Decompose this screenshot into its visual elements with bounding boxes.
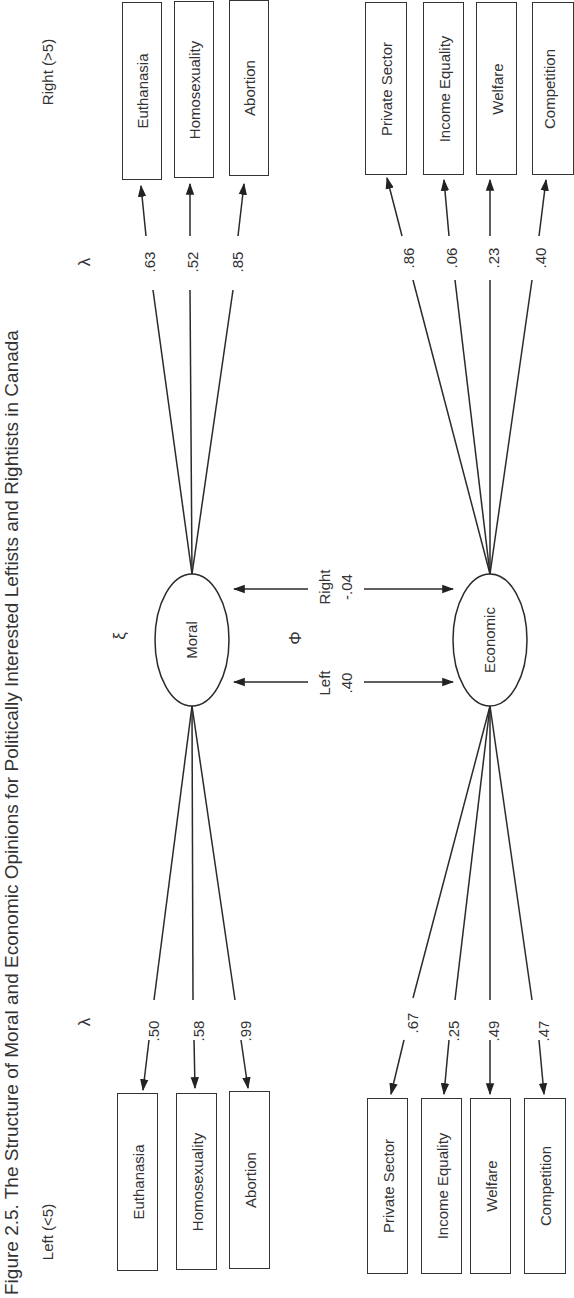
left-moral-box-abortion: Abortion bbox=[229, 1091, 270, 1269]
phi-left-value: .40 bbox=[338, 658, 356, 708]
right-moral-box-abortion: Abortion bbox=[229, 0, 269, 176]
loading-right-homosexuality: .52 bbox=[184, 242, 202, 282]
right-economic-box-private-sector: Private Sector bbox=[365, 2, 407, 175]
indicator-label: Homosexuality bbox=[186, 40, 203, 138]
loading-right-private-sector: .86 bbox=[400, 238, 418, 278]
indicator-label: Welfare bbox=[482, 1160, 499, 1211]
loading-left-income-equality: .25 bbox=[445, 1011, 463, 1051]
left-moral-box-euthanasia: Euthanasia bbox=[117, 1093, 158, 1271]
loading-right-income-equality: .06 bbox=[443, 238, 461, 278]
left-economic-box-welfare: Welfare bbox=[470, 1098, 511, 1274]
left-economic-box-private-sector: Private Sector bbox=[367, 1098, 408, 1274]
indicator-label: Income Equality bbox=[435, 35, 452, 142]
loading-left-abortion: .99 bbox=[237, 1011, 255, 1051]
phi-right-value: -.04 bbox=[338, 562, 356, 612]
indicator-label: Private Sector bbox=[379, 1139, 396, 1233]
indicator-label: Abortion bbox=[241, 60, 258, 116]
right-moral-box-homosexuality: Homosexuality bbox=[174, 1, 214, 178]
loading-right-euthanasia: .63 bbox=[141, 242, 159, 282]
left-group-label: Left (<5) bbox=[38, 1192, 58, 1272]
phi-symbol: Φ bbox=[286, 628, 306, 648]
xi-symbol: ξ bbox=[110, 626, 130, 646]
loading-left-welfare: .49 bbox=[485, 1011, 503, 1051]
loading-left-private-sector: .67 bbox=[404, 1003, 422, 1043]
left-moral-box-homosexuality: Homosexuality bbox=[176, 1093, 217, 1270]
indicator-label: Welfare bbox=[488, 63, 505, 114]
loading-right-competition: .40 bbox=[532, 238, 550, 278]
figure-title: Figure 2.5. The Structure of Moral and E… bbox=[0, 5, 24, 1295]
right-moral-box-euthanasia: Euthanasia bbox=[122, 2, 162, 180]
right-economic-box-competition: Competition bbox=[532, 2, 574, 175]
indicator-label: Income Equality bbox=[433, 1133, 450, 1240]
indicator-label: Euthanasia bbox=[129, 1144, 146, 1219]
lambda-symbol-right: λ bbox=[75, 252, 95, 272]
indicator-label: Competition bbox=[541, 48, 558, 128]
economic-latent-label: Economic bbox=[480, 600, 500, 680]
indicator-label: Euthanasia bbox=[134, 53, 151, 128]
left-economic-box-competition: Competition bbox=[524, 1098, 566, 1274]
right-economic-box-income-equality: Income Equality bbox=[423, 2, 464, 175]
right-economic-box-welfare: Welfare bbox=[476, 2, 517, 175]
indicator-label: Competition bbox=[537, 1146, 554, 1226]
phi-right-label: Right bbox=[316, 562, 334, 612]
moral-latent-label: Moral bbox=[182, 610, 202, 670]
loading-right-abortion: .85 bbox=[229, 242, 247, 282]
left-economic-box-income-equality: Income Equality bbox=[421, 1098, 462, 1274]
indicator-label: Private Sector bbox=[378, 41, 395, 135]
loading-right-welfare: .23 bbox=[485, 238, 503, 278]
lambda-symbol-left: λ bbox=[75, 1012, 95, 1032]
phi-left-label: Left bbox=[316, 658, 334, 708]
loading-left-homosexuality: .58 bbox=[190, 1011, 208, 1051]
indicator-label: Homosexuality bbox=[188, 1132, 205, 1230]
loading-left-euthanasia: .50 bbox=[145, 1011, 163, 1051]
indicator-label: Abortion bbox=[241, 1152, 258, 1208]
loading-left-competition: .47 bbox=[535, 1011, 553, 1051]
right-group-label: Right (>5) bbox=[38, 32, 58, 112]
